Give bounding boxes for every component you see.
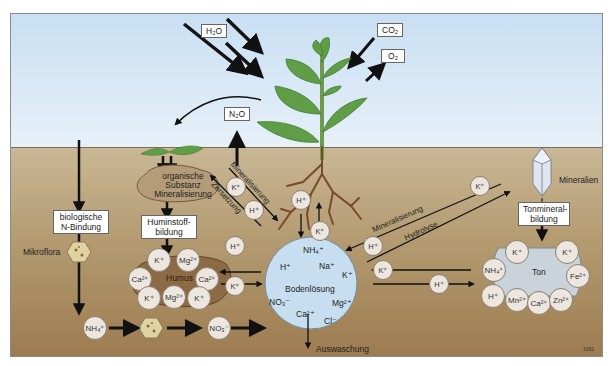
humus-ion-mg2: Mg²⁺ [162,285,186,309]
plant-illustration [257,38,367,160]
microflora-hexagon [67,242,91,262]
clay-ion-mn: Mn²⁺ [505,288,529,312]
solution-h: H⁺ [280,262,291,272]
exchange-ion-h-humus: H⁺ [225,236,245,256]
co2-arrow [351,38,374,65]
exchange-ion-k-clay: K⁺ [373,260,393,280]
exchange-ion-h-left: H⁺ [244,200,264,220]
clay-ion-ca: Ca²⁺ [527,291,551,315]
solution-nh4: NH₄⁺ [303,245,324,255]
solution-na: Na⁺ [319,261,335,271]
solution-ca: Ca²⁺ [296,309,315,319]
solution-k: K⁺ [342,270,353,280]
humus-ion-mg1: Mg²⁺ [176,248,200,272]
humus-ion-k1: K⁺ [147,248,171,272]
bio-n-fixation-box: biologische N-Bindung [53,210,109,234]
exchange-ion-k-left: K⁺ [226,177,246,197]
exchange-ion-k-root: K⁺ [310,221,330,241]
exchange-ion-k-right: K⁺ [470,176,490,196]
exchange-ion-h-right: H⁺ [363,236,383,256]
solution-no3: NO₃⁻ [269,297,290,307]
mineral-crystal [533,148,551,196]
clay-ion-k1: K⁺ [505,240,529,264]
clay-ion-nh4: NH₄⁺ [482,258,506,282]
no3-ion: NO₃⁻ [207,316,231,340]
clay-ion-fe: Fe²⁺ [566,264,590,288]
o2-label: O₂ [381,49,405,63]
nitrifier-hexagon [139,318,163,338]
exchange-ion-h-clay: H⁺ [429,274,449,294]
humic-formation-box: Huminstoff- bildung [141,215,197,239]
solution-label: Bodenlösung [285,284,335,294]
exchange-ion-h-root: H⁺ [291,190,311,210]
figure-id: 3181 [583,347,594,352]
seedling [141,146,203,155]
humus-ion-k3: K⁺ [187,286,211,310]
h2o-label: H₂O [201,24,227,38]
clay-ion-h: H⁺ [481,284,505,308]
co2-label: CO₂ [377,23,403,37]
solution-mg: Mg²⁺ [332,298,352,308]
organic-label-3: Mineralisierung [141,190,225,199]
n2o-label: N₂O [224,107,250,121]
clay-formation-box: Tonmineral- bildung [518,202,570,226]
diagram-frame: H₂O CO₂ O₂ N₂O organische Substanz Miner… [10,13,603,357]
clay-ion-k2: K⁺ [555,240,579,264]
nh4-ion: NH₄⁺ [83,316,107,340]
minerals-label: Mineralien [559,176,598,185]
leaching-label: Auswaschung [316,345,369,354]
exchange-ion-k-humus: K⁺ [225,276,245,296]
clay-label: Ton [532,268,546,277]
o2-arrow [366,66,382,81]
microflora-label: Mikroflora [23,248,60,257]
humus-label: Humus [166,274,193,283]
humus-ion-k2: K⁺ [137,286,161,310]
clay-ion-zn: Zn²⁺ [549,288,573,312]
solution-cl: Cl⁻ [324,316,337,326]
